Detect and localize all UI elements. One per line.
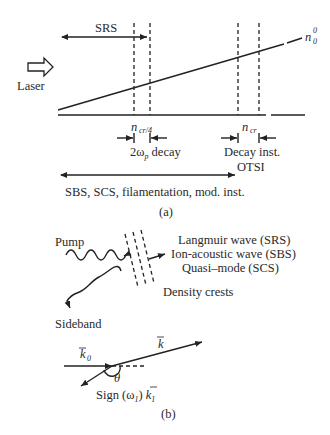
decay-inst-marker (221, 133, 276, 143)
sideband-label: Sideband (55, 317, 102, 331)
panel-a: Laser SRS n 0 0 n cr/4 n cr 2ωp decay (17, 21, 317, 219)
ncr-subscript: cr (250, 126, 258, 135)
caption-b: (b) (161, 407, 176, 421)
laser-label: Laser (17, 79, 46, 93)
k0-label: k (80, 347, 86, 361)
k-label: k (158, 337, 164, 351)
broad-range-label: SBS, SCS, filamentation, mod. inst. (65, 185, 245, 199)
k-vector (112, 342, 202, 366)
density-ramp (58, 44, 284, 110)
density-superscript: 0 (313, 26, 317, 35)
density-crests-label: Density crests (163, 285, 234, 299)
srs-label: SRS (95, 21, 117, 35)
decay-2wp-label: 2ωp decay (130, 145, 182, 161)
k1-vector (81, 366, 112, 386)
decay-inst-label: Decay inst. (224, 145, 280, 159)
wave-type-3: Quasi–mode (SCS) (182, 261, 279, 275)
otsi-label: OTSI (237, 160, 265, 174)
laser-arrow-icon (28, 58, 53, 76)
diagram-canvas: Laser SRS n 0 0 n cr/4 n cr 2ωp decay (0, 0, 330, 435)
pump-label: Pump (55, 235, 84, 249)
caption-a: (a) (159, 205, 173, 219)
wave-direction-arrow (149, 254, 165, 259)
sign-omega-label: Sign (ω1) k1 (96, 388, 155, 404)
k0-subscript: 0 (87, 354, 91, 363)
sideband-wave (67, 266, 121, 308)
density-label: n (305, 30, 311, 44)
pump-wave (66, 250, 126, 260)
ncr-label: n (242, 120, 248, 134)
wave-type-2: Ion-acoustic wave (SBS) (171, 247, 296, 261)
ncr4-label: n (131, 120, 137, 134)
density-subscript: 0 (313, 37, 317, 46)
wave-type-1: Langmuir wave (SRS) (178, 233, 290, 247)
panel-b: Pump Sideband Langmuir wave (SRS) Ion-ac… (55, 230, 296, 421)
theta-label: θ (114, 371, 120, 385)
density-ramp-tail (287, 38, 302, 43)
